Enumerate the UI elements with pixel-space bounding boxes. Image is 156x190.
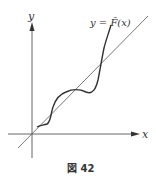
figure-caption: 図 42 — [67, 163, 94, 174]
curve-f-tilde — [37, 25, 111, 127]
x-axis-arrow-icon — [131, 132, 140, 137]
diagonal-line — [18, 16, 148, 148]
diagram-canvas: y x y = F̃(x) 図 42 — [0, 0, 156, 190]
curve-label: y = F̃(x) — [89, 17, 131, 28]
y-axis-label: y — [27, 10, 35, 23]
x-axis-label: x — [142, 128, 149, 141]
y-axis-arrow-icon — [30, 22, 35, 31]
